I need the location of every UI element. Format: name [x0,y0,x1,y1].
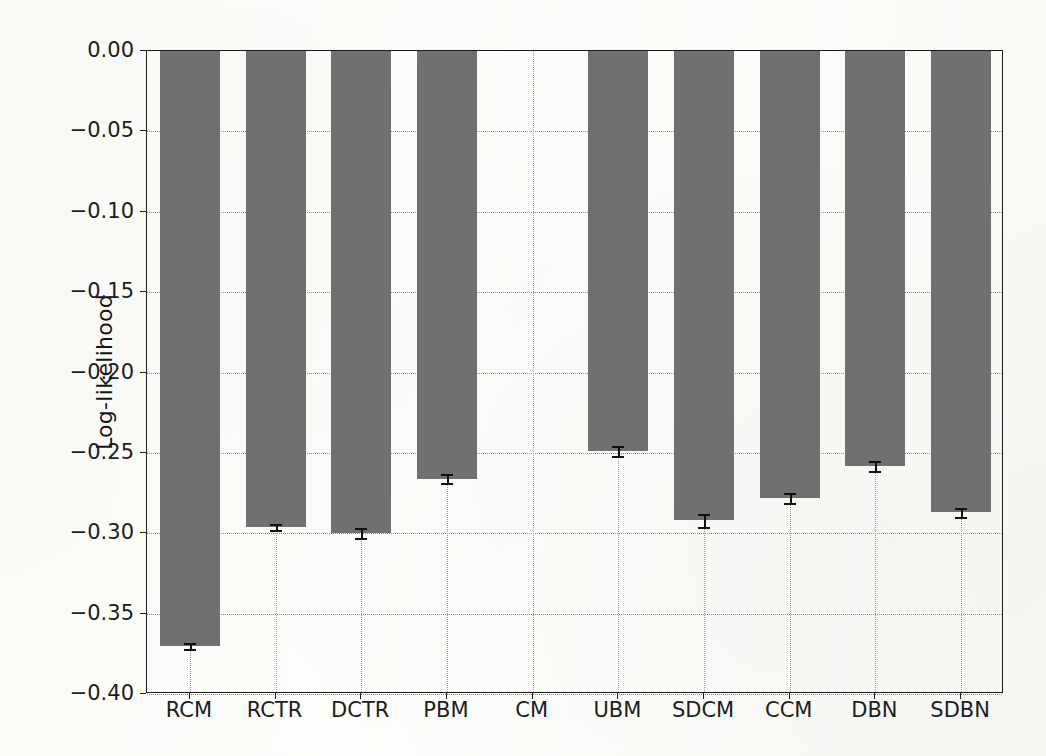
x-tick-label-ccm: CCM [765,698,812,722]
x-tickmark [874,693,875,699]
x-tick-label-sdbn: SDBN [930,698,990,722]
error-cap-sdbn-lower [955,517,967,519]
x-tickmark [789,693,790,699]
y-tick-label: −0.15 [0,279,134,303]
y-tickmark [140,211,146,212]
bar-ccm [760,51,820,498]
bar-pbm [417,51,477,479]
error-cap-sdcm-upper [698,514,710,516]
y-tickmark [140,532,146,533]
y-tickmark [140,50,146,51]
gridline-x [533,51,534,692]
x-tick-label-dbn: DBN [851,698,897,722]
chart-figure: Log-likelihood 0.00−0.05−0.10−0.15−0.20−… [0,0,1046,756]
y-tickmark [140,693,146,694]
bar-dbn [845,51,905,466]
y-tick-label: −0.35 [0,601,134,625]
y-tickmark [140,613,146,614]
error-cap-dbn-lower [869,471,881,473]
bar-rcm [160,51,220,646]
y-tickmark [140,291,146,292]
x-tickmark [703,693,704,699]
x-tickmark [189,693,190,699]
x-tickmark [275,693,276,699]
x-tick-label-ubm: UBM [593,698,641,722]
x-tickmark [446,693,447,699]
error-cap-sdbn-upper [955,508,967,510]
error-cap-rctr-lower [270,530,282,532]
plot-area [146,50,1003,693]
error-cap-dctr-lower [355,538,367,540]
error-cap-rcm-lower [184,649,196,651]
y-tickmark [140,372,146,373]
error-cap-sdcm-lower [698,527,710,529]
y-tick-label: −0.20 [0,360,134,384]
bar-ubm [588,51,648,451]
y-tickmark [140,130,146,131]
x-tickmark [617,693,618,699]
x-tickmark [532,693,533,699]
bar-dctr [331,51,391,533]
bar-rctr [246,51,306,527]
x-tickmark [360,693,361,699]
x-tick-label-cm: CM [515,698,548,722]
error-cap-rctr-upper [270,524,282,526]
error-cap-rcm-upper [184,643,196,645]
error-cap-dbn-upper [869,461,881,463]
error-cap-pbm-lower [441,483,453,485]
error-cap-ccm-lower [784,503,796,505]
error-cap-pbm-upper [441,474,453,476]
y-tick-label: −0.40 [0,681,134,705]
error-cap-ubm-upper [612,446,624,448]
y-tick-label: −0.25 [0,440,134,464]
error-cap-ubm-lower [612,456,624,458]
x-tick-label-sdcm: SDCM [672,698,734,722]
y-tick-label: 0.00 [0,38,134,62]
error-cap-ccm-upper [784,493,796,495]
x-tick-label-rctr: RCTR [247,698,303,722]
x-tickmark [960,693,961,699]
error-cap-dctr-upper [355,528,367,530]
y-tick-label: −0.30 [0,520,134,544]
y-tick-label: −0.05 [0,118,134,142]
x-tick-label-rcm: RCM [166,698,212,722]
x-tick-label-dctr: DCTR [331,698,389,722]
y-tickmark [140,452,146,453]
bar-sdcm [674,51,734,520]
y-tick-label: −0.10 [0,199,134,223]
bar-sdbn [931,51,991,512]
x-tick-label-pbm: PBM [423,698,468,722]
